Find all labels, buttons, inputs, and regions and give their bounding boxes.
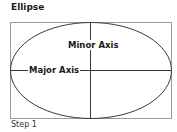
step-caption: Step 1 (11, 120, 37, 129)
minor-axis-label: Minor Axis (67, 40, 119, 50)
ellipse-diagram (0, 0, 177, 132)
major-axis-label: Major Axis (28, 65, 80, 75)
